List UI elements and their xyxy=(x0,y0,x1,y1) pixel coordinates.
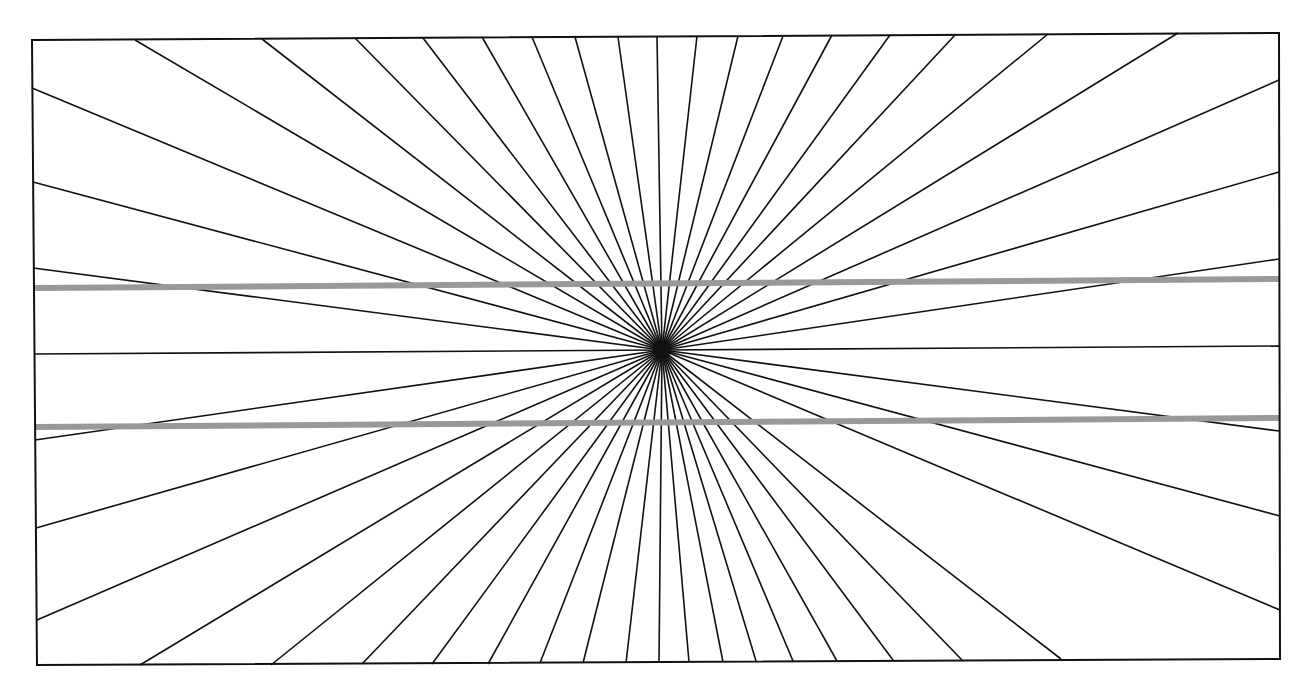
ray-line xyxy=(37,350,662,620)
ray-line xyxy=(662,33,1178,350)
ray-line xyxy=(657,36,662,350)
ray-line xyxy=(662,350,1061,659)
center-hub xyxy=(653,341,671,359)
ray-line xyxy=(140,350,662,665)
ray-line xyxy=(662,346,1279,350)
ray-line xyxy=(36,350,662,528)
ray-line xyxy=(662,350,1280,516)
ray-line xyxy=(662,35,832,350)
ray-line xyxy=(662,172,1279,350)
ray-line xyxy=(583,350,662,663)
ray-line xyxy=(662,35,955,350)
ray-line xyxy=(662,34,1048,350)
ray-line xyxy=(135,40,662,350)
ray-line xyxy=(618,37,662,350)
ray-line xyxy=(33,268,662,350)
ray-line xyxy=(662,35,890,350)
ray-line xyxy=(662,80,1279,350)
gray-horizontal-line xyxy=(36,418,1280,427)
ray-line xyxy=(262,39,662,350)
ray-line xyxy=(33,182,662,350)
ray-line xyxy=(659,350,662,662)
ray-line xyxy=(662,350,962,660)
ray-line xyxy=(662,350,893,660)
ray-line xyxy=(34,350,662,354)
ray-line xyxy=(662,259,1279,350)
ray-line xyxy=(362,350,662,664)
ray-line xyxy=(662,350,723,662)
ray-line xyxy=(355,38,662,350)
ray-line xyxy=(662,350,837,661)
ray-line xyxy=(532,37,662,350)
ray-line xyxy=(423,38,662,350)
ray-line xyxy=(662,36,738,350)
ray-line xyxy=(488,350,662,664)
ray-line xyxy=(32,88,662,350)
illusion-canvas xyxy=(0,0,1314,696)
hering-illusion-figure xyxy=(0,0,1314,696)
ray-line xyxy=(575,37,662,350)
